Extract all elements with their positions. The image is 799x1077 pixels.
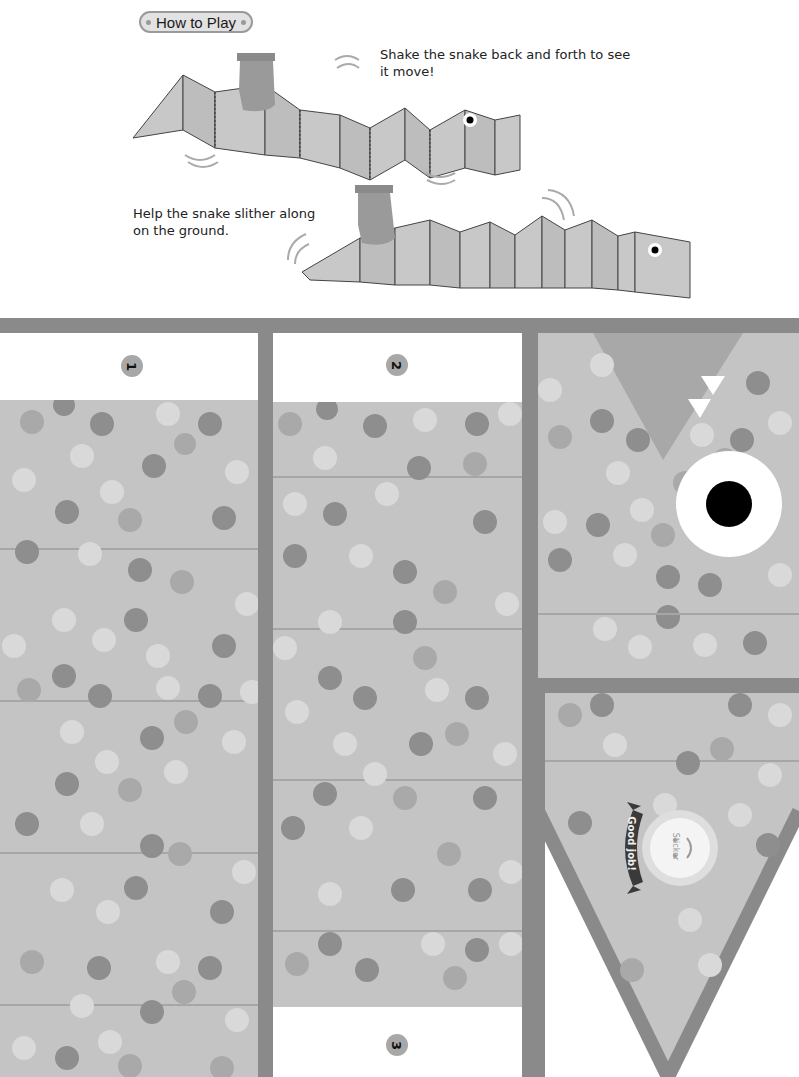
panel-number: 2 xyxy=(389,360,404,369)
panel-number-badge: 1 xyxy=(121,355,143,377)
snake-shake-illustration xyxy=(125,50,525,190)
panel-number-badge: 2 xyxy=(386,354,408,376)
snake-eye xyxy=(676,451,782,557)
panel-2-body xyxy=(273,402,522,1007)
fold-line xyxy=(273,930,522,932)
sticker-ribbon-text: Good job! xyxy=(626,812,637,876)
snake-head-panel xyxy=(538,333,799,678)
panel-number: 1 xyxy=(124,361,139,370)
panel-1-body xyxy=(0,400,258,1077)
snake-slither-illustration xyxy=(280,180,700,300)
fold-line xyxy=(538,613,799,615)
snake-pupil xyxy=(706,481,752,527)
panel-2-tab: 2 xyxy=(273,333,522,402)
panel-1-tab: 1 xyxy=(0,333,258,400)
how-to-play-label: How to Play xyxy=(156,14,236,31)
bullet-dot-icon xyxy=(146,20,151,25)
panel-number: 3 xyxy=(389,1040,404,1049)
fold-line xyxy=(273,476,522,478)
fold-line xyxy=(273,779,522,781)
sticker-label: Sticker xyxy=(671,825,680,869)
panel-3-tab: 3 xyxy=(273,1007,522,1077)
good-job-sticker[interactable]: Good job! Sticker xyxy=(615,798,725,898)
bullet-dot-icon xyxy=(241,20,246,25)
fold-line xyxy=(0,1004,258,1006)
how-to-play-badge: How to Play xyxy=(139,11,253,33)
panel-number-badge: 3 xyxy=(386,1034,408,1056)
fold-line xyxy=(0,852,258,854)
